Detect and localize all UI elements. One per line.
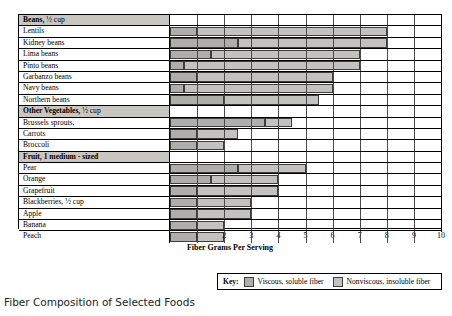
gridline <box>387 163 388 173</box>
gridline <box>224 72 225 82</box>
gridline <box>333 129 334 139</box>
gridline <box>387 174 388 184</box>
gridline <box>387 152 388 162</box>
figure-caption: Fiber Composition of Selected Foods <box>4 296 195 308</box>
bar-segment-soluble <box>170 27 197 36</box>
group-label-suffix: ½ cup <box>80 106 100 115</box>
legend-swatch-soluble-icon <box>244 277 254 287</box>
gridline <box>306 129 307 139</box>
bar-label: Northern beans <box>19 95 170 105</box>
gridline <box>414 61 415 71</box>
gridline <box>360 209 361 219</box>
gridline <box>414 140 415 150</box>
gridline <box>360 118 361 128</box>
gridline <box>360 129 361 139</box>
gridline <box>278 220 279 230</box>
bar-segment-soluble <box>170 129 197 138</box>
gridline <box>278 163 279 173</box>
gridline <box>333 49 334 59</box>
legend-label-insoluble: Nonviscous, insoluble fiber <box>347 277 431 286</box>
gridline <box>251 83 252 93</box>
gridline <box>278 61 279 71</box>
gridline <box>306 61 307 71</box>
bar-label: Navy beans <box>19 83 170 93</box>
gridline <box>414 49 415 59</box>
chart-bar-row: Grapefruit <box>19 186 441 197</box>
gridline <box>414 106 415 116</box>
gridline <box>224 220 225 230</box>
gridline <box>306 106 307 116</box>
gridline <box>360 152 361 162</box>
bar-segment-soluble <box>170 186 197 195</box>
gridline <box>251 26 252 36</box>
group-label: Other Vegetables, ½ cup <box>19 106 170 116</box>
gridline <box>414 15 415 25</box>
gridline <box>333 106 334 116</box>
gridline <box>333 163 334 173</box>
gridline <box>360 174 361 184</box>
legend-item-soluble: Viscous, soluble fiber <box>244 277 324 287</box>
gridline <box>306 163 307 173</box>
gridline <box>306 209 307 219</box>
gridline <box>333 95 334 105</box>
gridline <box>387 231 388 242</box>
bar-label: Banana <box>19 220 170 230</box>
gridline <box>197 174 198 184</box>
gridline <box>197 140 198 150</box>
bar-track <box>170 197 441 207</box>
gridline <box>197 129 198 139</box>
bar-track <box>170 61 441 71</box>
gridline <box>414 209 415 219</box>
gridline <box>224 174 225 184</box>
bar-label: Blackberries, ½ cup <box>19 197 170 207</box>
bar-label: Pear <box>19 163 170 173</box>
chart-bar-row: Brussels sprouts, <box>19 118 441 129</box>
gridline <box>414 231 415 242</box>
gridline <box>333 15 334 25</box>
gridline <box>360 49 361 59</box>
gridline <box>306 174 307 184</box>
gridline <box>224 209 225 219</box>
gridline <box>197 186 198 196</box>
gridline <box>278 83 279 93</box>
gridline <box>387 129 388 139</box>
gridline <box>224 26 225 36</box>
bar-segment-soluble <box>170 72 197 81</box>
gridline <box>278 140 279 150</box>
gridline <box>251 38 252 48</box>
gridline <box>333 83 334 93</box>
gridline <box>278 209 279 219</box>
gridline <box>306 95 307 105</box>
gridline <box>306 140 307 150</box>
gridline <box>333 197 334 207</box>
gridline <box>387 118 388 128</box>
gridline <box>414 83 415 93</box>
gridline <box>387 83 388 93</box>
gridline <box>197 83 198 93</box>
bar-segment-soluble <box>170 164 238 173</box>
gridline <box>360 83 361 93</box>
bar-track <box>170 106 441 116</box>
gridline <box>360 61 361 71</box>
gridline <box>197 152 198 162</box>
gridline <box>224 231 225 242</box>
gridline <box>251 106 252 116</box>
chart-group-row: Fruit, 1 medium - sized <box>19 152 441 163</box>
gridline <box>278 197 279 207</box>
bar-segment-soluble <box>170 50 211 59</box>
bar-segment-insoluble <box>197 72 333 81</box>
bar-segment-insoluble <box>197 141 224 150</box>
bar-label: Garbanzo beans <box>19 72 170 82</box>
gridline <box>360 140 361 150</box>
chart-bar-row: Northern beans <box>19 95 441 106</box>
gridline <box>251 140 252 150</box>
gridline <box>251 174 252 184</box>
bar-track <box>170 49 441 59</box>
bar-segment-insoluble <box>197 27 387 36</box>
gridline <box>278 174 279 184</box>
gridline <box>387 197 388 207</box>
bar-label: Lentils <box>19 26 170 36</box>
gridline <box>414 220 415 230</box>
bar-label: Broccoli <box>19 140 170 150</box>
gridline <box>224 61 225 71</box>
